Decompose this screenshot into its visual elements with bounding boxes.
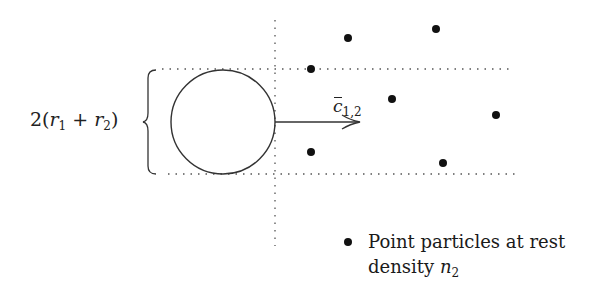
legend-density-text: density bbox=[368, 256, 440, 277]
legend-bullet-icon bbox=[344, 238, 352, 246]
density-subscript: 2 bbox=[451, 266, 459, 280]
legend-line-1: Point particles at rest bbox=[368, 229, 565, 254]
density-symbol: n bbox=[440, 256, 452, 277]
particle-dot bbox=[388, 95, 396, 103]
velocity-subscript: 1,2 bbox=[343, 105, 362, 119]
particle-dot bbox=[439, 159, 447, 167]
relative-velocity-label: c1,2 bbox=[333, 96, 362, 119]
r2-symbol: r bbox=[94, 108, 103, 130]
particle-dot bbox=[344, 34, 352, 42]
plus-sign: + bbox=[66, 108, 94, 130]
velocity-symbol: c bbox=[333, 96, 343, 116]
particle-dot bbox=[492, 111, 500, 119]
width-label-prefix: 2( bbox=[30, 108, 50, 130]
r1-symbol: r bbox=[50, 108, 59, 130]
molecule-circle bbox=[171, 70, 275, 174]
r2-subscript: 2 bbox=[103, 119, 111, 133]
particle-dot bbox=[307, 148, 315, 156]
particle-dot bbox=[307, 65, 315, 73]
particle-dot bbox=[432, 25, 440, 33]
curly-brace-icon bbox=[143, 70, 156, 174]
width-label-suffix: ) bbox=[111, 108, 118, 130]
legend-line-2: density n2 bbox=[368, 254, 459, 286]
cross-section-width-label: 2(r1 + r2) bbox=[30, 108, 118, 133]
